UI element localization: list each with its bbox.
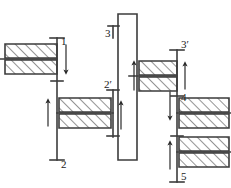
gear-1-lower-body xyxy=(5,60,57,74)
gear-1 xyxy=(0,44,57,74)
gear-train-diagram: 1 2 2′ 3 3′ 4 5 xyxy=(0,0,231,188)
gear-5-lower-body xyxy=(179,153,229,167)
label-gear-1: 1 xyxy=(61,35,67,47)
gear-5 xyxy=(177,137,231,167)
gear-3p-upper-body xyxy=(139,61,177,75)
label-gear-5: 5 xyxy=(181,170,187,182)
gear-train-canvas: 1 2 2′ 3 3′ 4 5 xyxy=(0,0,231,188)
gear-4-upper-body xyxy=(179,98,229,112)
label-gear-3: 3 xyxy=(105,27,111,39)
label-gear-2p: 2′ xyxy=(104,78,112,90)
gear-2 xyxy=(57,98,113,128)
label-gear-4: 4 xyxy=(181,91,187,103)
label-gear-3p: 3′ xyxy=(181,38,189,50)
label-gear-2: 2 xyxy=(61,158,67,170)
gear-2-upper-body xyxy=(59,98,111,112)
gear-5-upper-body xyxy=(179,137,229,151)
gear-1-upper-body xyxy=(5,44,57,58)
gear-3p-lower-body xyxy=(139,77,177,91)
gear-4-lower-body xyxy=(179,114,229,128)
gear-2-lower-body xyxy=(59,114,111,128)
